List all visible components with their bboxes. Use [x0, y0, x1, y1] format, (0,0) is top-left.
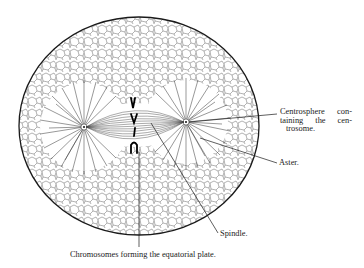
centrosphere-label: Centrosphere con- taining the cen- troso…: [280, 108, 352, 134]
mitosis-cell-diagram: [0, 0, 364, 268]
spindle-label: Spindle.: [220, 230, 248, 239]
aster-label: Aster.: [279, 159, 299, 168]
centrosphere-label-line-3: trosome.: [280, 125, 352, 134]
chromosomes-label: Chromosomes forming the equatorial plate…: [70, 251, 216, 260]
